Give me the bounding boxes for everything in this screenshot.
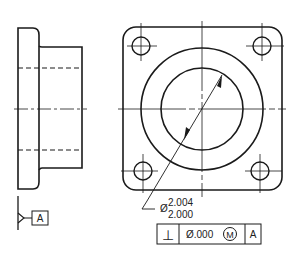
technical-drawing: A Ø 2.004 2.000 ⊥ bbox=[0, 0, 301, 261]
hub-outline bbox=[39, 46, 82, 170]
lower-limit: 2.000 bbox=[168, 209, 193, 220]
datum-feature-symbol bbox=[18, 196, 48, 230]
datum-triangle bbox=[18, 213, 24, 223]
datum-reference: A bbox=[250, 229, 257, 240]
upper-limit: 2.004 bbox=[168, 197, 193, 208]
flange-outline bbox=[18, 28, 39, 189]
perpendicularity-symbol: ⊥ bbox=[162, 227, 174, 243]
side-view bbox=[14, 28, 87, 189]
tolerance-value: Ø.000 bbox=[186, 229, 214, 240]
arrowhead-lower bbox=[184, 127, 190, 140]
mmc-modifier: M bbox=[226, 230, 234, 240]
datum-letter: A bbox=[37, 213, 44, 224]
diameter-symbol: Ø bbox=[160, 203, 168, 214]
diameter-dimension-line bbox=[142, 75, 222, 209]
